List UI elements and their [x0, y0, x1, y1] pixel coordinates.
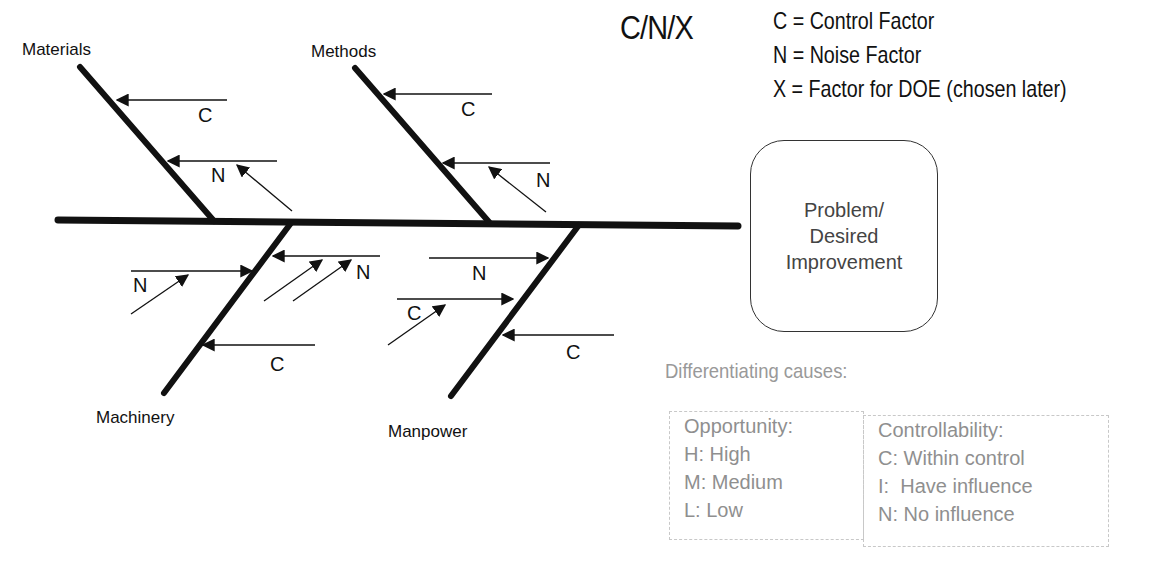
bone-manpower: [451, 225, 579, 396]
factor-label: N: [356, 261, 370, 284]
category-manpower: Manpower: [388, 422, 467, 442]
controllability-item: C: Within control: [878, 444, 1108, 472]
legend-item-doe: X = Factor for DOE (chosen later): [773, 72, 1067, 106]
legend-item-control: C = Control Factor: [773, 4, 1067, 38]
effect-line-1: Problem/: [786, 197, 903, 223]
effect-box: Problem/ Desired Improvement: [750, 140, 938, 332]
factor-label: N: [133, 274, 147, 297]
category-materials: Materials: [22, 40, 91, 60]
factor-label: C: [198, 104, 212, 127]
factor-label: C: [270, 353, 284, 376]
diagram-title-code: C/N/X: [620, 8, 693, 47]
bone-materials: [80, 67, 214, 221]
differentiating-title: Differentiating causes:: [665, 359, 848, 383]
factor-label: N: [211, 164, 225, 187]
effect-line-2: Desired: [786, 223, 903, 249]
factor-label: C: [566, 341, 580, 364]
factor-label: C: [461, 98, 475, 121]
opportunity-item: L: Low: [684, 496, 863, 524]
bone-methods: [355, 68, 489, 222]
factor-label: N: [472, 262, 486, 285]
opportunity-heading: Opportunity:: [684, 412, 863, 440]
legend-item-noise: N = Noise Factor: [773, 38, 1067, 72]
controllability-item: I: Have influence: [878, 472, 1108, 500]
opportunity-item: M: Medium: [684, 468, 863, 496]
controllability-item: N: No influence: [878, 500, 1108, 528]
spine: [58, 220, 738, 226]
effect-line-3: Improvement: [786, 249, 903, 275]
controllability-heading: Controllability:: [878, 416, 1108, 444]
controllability-box: Controllability: C: Within control I: Ha…: [863, 415, 1109, 547]
factor-label: C: [407, 302, 421, 325]
category-methods: Methods: [311, 42, 376, 62]
opportunity-box: Opportunity: H: High M: Medium L: Low: [669, 411, 864, 540]
opportunity-item: H: High: [684, 440, 863, 468]
category-machinery: Machinery: [96, 408, 174, 428]
factor-label: N: [536, 169, 550, 192]
factor-legend: C = Control Factor N = Noise Factor X = …: [773, 4, 1067, 106]
